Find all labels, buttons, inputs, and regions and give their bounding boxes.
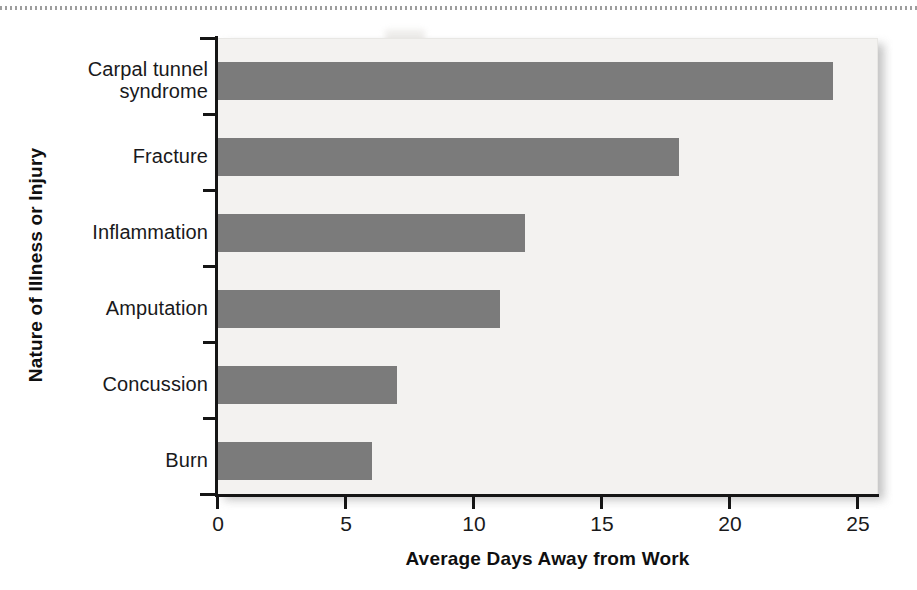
bar-chart-figure: Carpal tunnel syndrome Fracture Inflamma…	[0, 0, 917, 590]
y-axis-label-amputation: Amputation	[20, 297, 208, 319]
bar-fracture	[218, 138, 679, 176]
x-axis-tick-label: 15	[572, 512, 632, 536]
bar-concussion	[218, 366, 397, 404]
y-axis-label-carpal-tunnel-syndrome: Carpal tunnel syndrome	[20, 58, 208, 103]
x-axis-tick-label: 25	[828, 512, 888, 536]
x-axis-spine	[215, 494, 879, 497]
y-axis-label-burn: Burn	[20, 449, 208, 471]
x-axis-tick-label: 5	[316, 512, 376, 536]
bar-amputation	[218, 290, 500, 328]
y-axis-label-line: Carpal tunnel	[20, 58, 208, 80]
y-axis-label-line: Burn	[20, 449, 208, 471]
bar-inflammation	[218, 214, 525, 252]
y-axis-label-line: Fracture	[20, 145, 208, 167]
x-axis-tick	[600, 495, 603, 509]
y-axis-label-line: Inflammation	[20, 221, 208, 243]
y-axis-label-line: syndrome	[20, 80, 208, 102]
y-axis-title: Nature of Illness or Injury	[25, 148, 47, 383]
x-axis-tick	[216, 495, 219, 509]
y-axis-label-fracture: Fracture	[20, 145, 208, 167]
y-axis-label-line: Amputation	[20, 297, 208, 319]
x-axis-title: Average Days Away from Work	[217, 548, 878, 570]
bar-burn	[218, 442, 372, 480]
bar-carpal-tunnel-syndrome	[218, 62, 833, 100]
x-axis-tick-label: 20	[700, 512, 760, 536]
y-axis-label-line: Concussion	[20, 373, 208, 395]
y-axis-label-concussion: Concussion	[20, 373, 208, 395]
x-axis-tick	[856, 495, 859, 509]
x-axis-tick	[344, 495, 347, 509]
x-axis-tick	[728, 495, 731, 509]
plot-area	[217, 38, 878, 495]
y-axis-label-inflammation: Inflammation	[20, 221, 208, 243]
x-axis-tick-label: 10	[444, 512, 504, 536]
x-axis-tick	[472, 495, 475, 509]
x-axis-tick-label: 0	[188, 512, 248, 536]
